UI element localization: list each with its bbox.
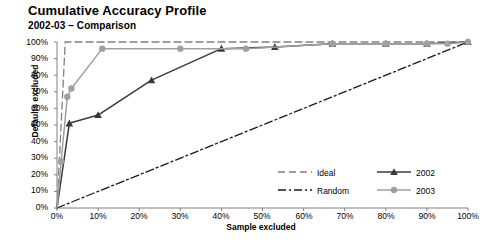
marker-2002 xyxy=(94,111,102,118)
marker-2003 xyxy=(329,40,335,46)
legend-swatch-2003-marker xyxy=(391,187,397,193)
marker-2003 xyxy=(444,40,450,46)
marker-2003 xyxy=(383,40,389,46)
legend-swatches xyxy=(278,168,411,193)
plot-svg xyxy=(0,0,494,242)
marker-2003 xyxy=(58,158,64,164)
marker-2003 xyxy=(243,45,249,51)
data-series xyxy=(57,38,472,208)
marker-2003 xyxy=(465,39,471,45)
marker-2003 xyxy=(99,45,105,51)
chart-container: Cumulative Accuracy Profile 2002-03 – Co… xyxy=(0,0,494,242)
marker-2003 xyxy=(68,85,74,91)
marker-2003 xyxy=(64,94,70,100)
marker-2003 xyxy=(424,40,430,46)
marker-2003 xyxy=(177,45,183,51)
series-line-random xyxy=(57,42,468,208)
